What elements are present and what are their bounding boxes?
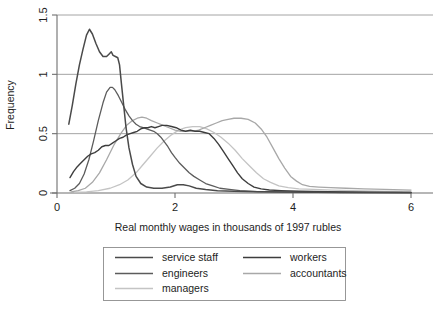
legend-items: service staffworkersengineersaccountants… bbox=[115, 251, 347, 294]
x-tick-label-6: 6 bbox=[408, 201, 414, 213]
x-axis-title: Real monthly wages in thousands of 1997 … bbox=[115, 221, 341, 233]
curve-service-staff bbox=[69, 29, 411, 192]
chart-canvas: 0246 00.511.5 Real monthly wages in thou… bbox=[0, 0, 439, 315]
x-tick-label-2: 2 bbox=[172, 201, 178, 213]
axis-lines bbox=[50, 15, 433, 193]
y-tick-label-0.5: 0.5 bbox=[37, 126, 49, 141]
density-plot-figure: 0246 00.511.5 Real monthly wages in thou… bbox=[0, 0, 439, 315]
legend-label-engineers: engineers bbox=[162, 267, 208, 279]
y-tick-label-1: 1 bbox=[37, 71, 49, 77]
curve-workers bbox=[70, 125, 411, 192]
curve-accountants bbox=[71, 117, 411, 192]
legend-label-workers: workers bbox=[289, 251, 327, 263]
tick-marks bbox=[52, 15, 411, 198]
x-tick-labels: 0246 bbox=[54, 201, 414, 213]
legend-label-accountants: accountants bbox=[290, 267, 347, 279]
y-tick-label-0: 0 bbox=[37, 190, 49, 196]
y-axis-title: Frequency bbox=[4, 79, 16, 129]
y-tick-label-1.5: 1.5 bbox=[37, 7, 49, 22]
legend-label-managers: managers bbox=[162, 282, 209, 294]
series-curves bbox=[69, 29, 411, 192]
x-tick-label-0: 0 bbox=[54, 201, 60, 213]
y-tick-labels: 00.511.5 bbox=[37, 7, 49, 196]
x-tick-label-4: 4 bbox=[290, 201, 296, 213]
legend-label-service-staff: service staff bbox=[162, 251, 218, 263]
gridlines bbox=[57, 15, 433, 134]
